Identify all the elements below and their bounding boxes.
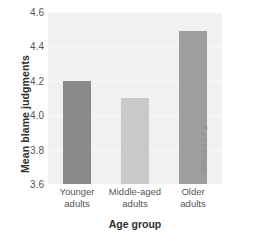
- y-tick-label: 4.4: [14, 41, 44, 52]
- gridline: [48, 12, 222, 13]
- x-axis-title: Age group: [48, 218, 222, 230]
- x-category-label-line: adults: [157, 198, 229, 210]
- y-tick-label: 4.2: [14, 75, 44, 86]
- y-tick-label: 4.6: [14, 7, 44, 18]
- bar: [63, 81, 91, 184]
- bar-chart-figure: Mean blame judgments 3.63.84.04.24.44.6 …: [0, 0, 262, 247]
- y-axis-tick-labels: 3.63.84.04.24.44.6: [14, 12, 44, 184]
- y-tick-label: 3.8: [14, 144, 44, 155]
- x-category-label-line: Older: [157, 186, 229, 198]
- plot-area: [48, 12, 222, 184]
- x-category-label: Olderadults: [157, 186, 229, 209]
- copyright-credit: © 2019 Cengage: [201, 126, 208, 206]
- y-tick-label: 3.6: [14, 179, 44, 190]
- bar: [121, 98, 149, 184]
- y-tick-label: 4.0: [14, 110, 44, 121]
- x-axis-category-labels: YoungeradultsMiddle-agedadultsOlderadult…: [48, 186, 222, 220]
